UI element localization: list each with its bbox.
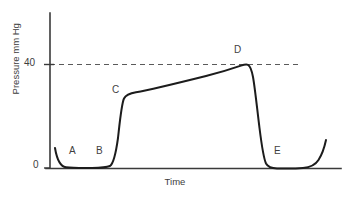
curve-point-label-d: D bbox=[234, 45, 241, 55]
y-tick-label-0: 0 bbox=[33, 160, 39, 170]
curve-point-label-c: C bbox=[112, 85, 119, 95]
curve-point-label-e: E bbox=[274, 146, 281, 156]
pressure-time-chart: 40 0 Pressure mm Hg Time A B C D E bbox=[0, 0, 346, 198]
chart-plot-area bbox=[0, 0, 346, 198]
y-tick-label-40: 40 bbox=[24, 58, 35, 68]
x-axis-title: Time bbox=[140, 177, 210, 187]
curve-point-label-b: B bbox=[96, 146, 103, 156]
curve-point-label-a: A bbox=[69, 146, 76, 156]
y-axis-title: Pressure mm Hg bbox=[11, 13, 21, 105]
